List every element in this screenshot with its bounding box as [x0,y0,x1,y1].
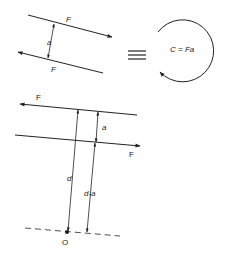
origin-point [65,230,69,234]
force-top-label: F [66,15,72,24]
bottom-force-bottom-arrow [15,135,140,146]
couple-label: C = Fa [170,45,195,54]
force-bottom-arrow [18,52,103,73]
distance-d-label: d [67,174,72,183]
bottom-force-top-arrow [20,104,137,115]
couple-moment-group: C = Fa [158,20,214,82]
force-couple-diagram: F F a C = Fa F F a d d-a O [0,0,226,257]
force-bottom-label: F [51,65,57,74]
moment-about-point-group: F F a d d-a O [15,93,140,247]
equivalence-symbol [128,51,146,59]
bottom-separation-a-arrow [96,112,98,142]
origin-label: O [62,238,68,247]
bottom-force-bottom-label: F [129,150,134,159]
bottom-force-top-label: F [36,93,41,102]
distance-d-minus-a-arrow [87,143,95,232]
separation-a-label: a [47,38,52,47]
bottom-separation-a-label: a [102,123,107,132]
reference-line [25,228,120,236]
couple-forces-group: F F a [18,15,112,74]
distance-d-arrow [68,110,78,231]
distance-d-minus-a-label: d-a [84,189,96,198]
